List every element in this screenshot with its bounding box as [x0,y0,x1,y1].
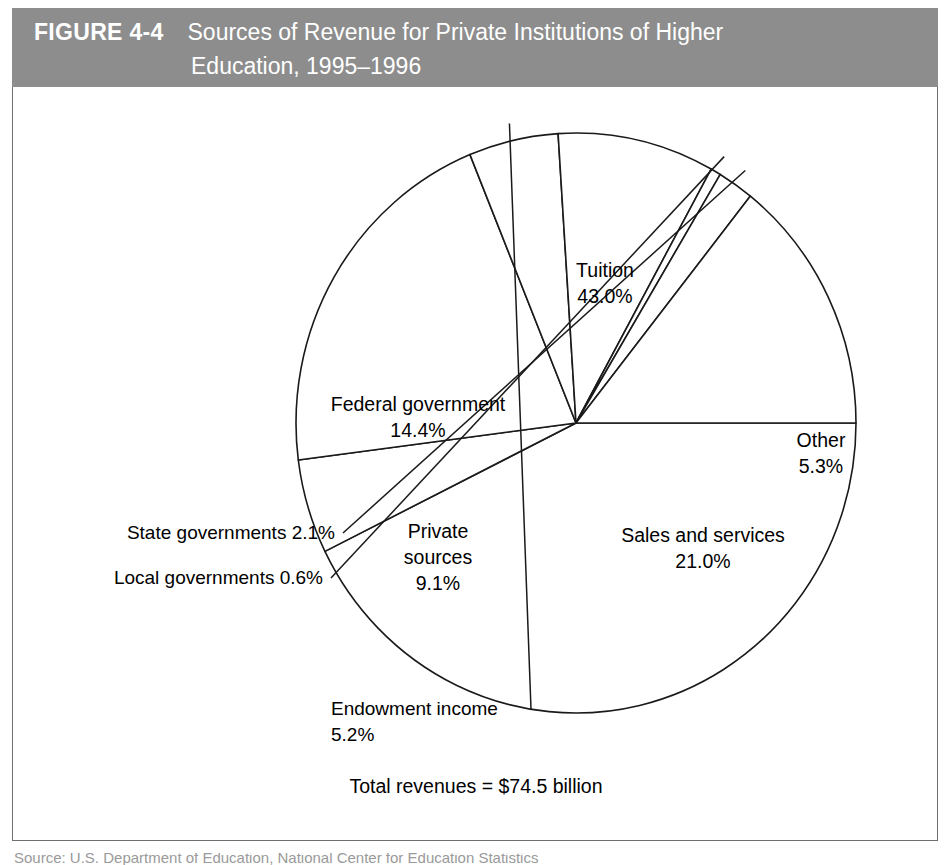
figure-title-line-2: Education, 1995–1996 [191,50,938,83]
figure-header-band: FIGURE 4-4Sources of Revenue for Private… [12,8,938,87]
pie-slices-group [296,133,856,713]
figure-plot-area: Tuition43.0%Other5.3%Sales and services2… [12,87,938,841]
figure-title-line-1: Sources of Revenue for Private Instituti… [188,19,724,45]
pie-label-local-governments: Local governments 0.6% [114,567,323,588]
caption-text: Source: U.S. Department of Education, Na… [14,853,914,865]
pie-chart-svg: Tuition43.0%Other5.3%Sales and services2… [13,87,939,841]
figure-number: FIGURE 4-4 [34,19,164,45]
figure-source-caption-cutoff: Source: U.S. Department of Education, Na… [14,853,914,865]
figure-container: FIGURE 4-4Sources of Revenue for Private… [12,8,938,841]
pie-label-endowment-income: Endowment income5.2% [331,698,498,745]
pie-label-state-governments: State governments 2.1% [127,522,335,543]
total-revenues-label: Total revenues = $74.5 billion [349,775,602,797]
figure-header-row-1: FIGURE 4-4Sources of Revenue for Private… [34,17,938,50]
